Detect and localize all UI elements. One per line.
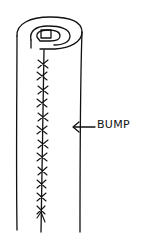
rolled-tube-drawing (0, 0, 160, 251)
spiral-roll-top (17, 17, 82, 49)
arrow-icon (73, 122, 95, 132)
tube-right-edge (80, 32, 82, 232)
bump-label: BUMP (97, 118, 130, 131)
